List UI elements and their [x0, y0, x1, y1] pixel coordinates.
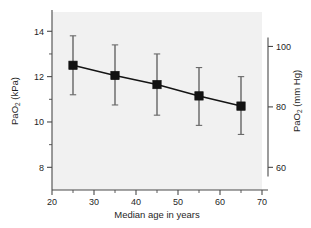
y-axis-left: 8101214 — [34, 10, 52, 190]
y-axis-right: 6080100 — [268, 37, 291, 176]
data-point-marker[interactable] — [69, 61, 77, 69]
y-axis-right-tick-label: 60 — [276, 163, 286, 173]
x-axis-tick-label: 60 — [215, 197, 225, 207]
x-axis-tick-label: 20 — [47, 197, 57, 207]
x-axis-tick-label: 30 — [89, 197, 99, 207]
x-axis-tick-label: 40 — [131, 197, 141, 207]
data-point-marker[interactable] — [195, 92, 203, 100]
data-point-marker[interactable] — [111, 71, 119, 79]
data-point-marker[interactable] — [153, 80, 161, 88]
x-axis-tick-label: 50 — [173, 197, 183, 207]
x-axis: 203040506070 — [47, 190, 268, 207]
x-axis-tick-label: 70 — [257, 197, 267, 207]
y-axis-left-tick-label: 14 — [34, 27, 44, 37]
y-axis-left-tick-label: 12 — [34, 72, 44, 82]
y-axis-left-tick-label: 8 — [39, 163, 44, 173]
y-axis-right-title-text: PaO2 (mm Hg) — [291, 70, 303, 132]
y-axis-left-tick-label: 10 — [34, 117, 44, 127]
y-axis-left-title: PaO2 (kPa) — [9, 77, 21, 125]
pao2-vs-age-chart: 81012146080100203040506070Median age in … — [0, 0, 311, 228]
data-point-marker[interactable] — [237, 102, 245, 110]
y-axis-right-tick-label: 100 — [276, 42, 291, 52]
x-axis-title: Median age in years — [114, 209, 200, 220]
y-axis-right-title: PaO2 (mm Hg) — [291, 70, 303, 132]
y-axis-left-title-text: PaO2 (kPa) — [9, 77, 21, 125]
chart-figure: 81012146080100203040506070Median age in … — [0, 0, 311, 228]
y-axis-right-tick-label: 80 — [276, 102, 286, 112]
